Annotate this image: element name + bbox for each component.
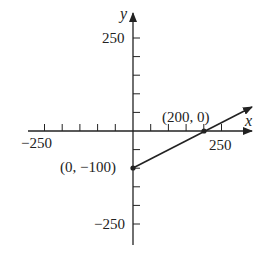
- y-tick-label-neg250: −250: [94, 216, 125, 232]
- point-a: [130, 165, 135, 170]
- x-axis-label: x: [244, 112, 252, 129]
- y-tick-label-250: 250: [102, 30, 125, 46]
- point-b: [201, 128, 206, 133]
- x-tick-label-neg250: −250: [21, 135, 52, 151]
- point-a-label: (0, −100): [60, 159, 116, 176]
- y-axis-label: y: [118, 5, 128, 23]
- coordinate-plane: y x 250 −250 −250 250 (200, 0) (0, −100): [0, 0, 264, 253]
- x-tick-label-250: 250: [209, 137, 232, 153]
- point-b-label: (200, 0): [162, 109, 210, 126]
